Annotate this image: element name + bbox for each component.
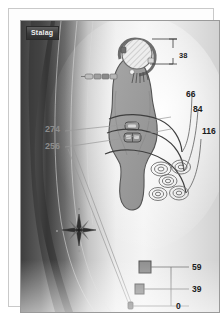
site-plan-graphic (21, 21, 219, 312)
figure-canvas: Stalag 38 66 84 116 274 256 59 39 0 (21, 21, 219, 312)
figure-title-plate: Stalag (26, 26, 59, 40)
label-contour-116: 116 (202, 127, 216, 136)
label-contour-84: 84 (193, 105, 202, 114)
label-scale-59: 59 (192, 263, 201, 272)
label-scale-39: 39 (192, 285, 201, 294)
plate-fade-overlay (21, 21, 219, 312)
figure-inner-frame: Stalag 38 66 84 116 274 256 59 39 0 (20, 20, 220, 313)
label-left-274: 274 (45, 125, 60, 134)
figure-panel: Stalag 38 66 84 116 274 256 59 39 0 (0, 0, 222, 315)
label-contour-66: 66 (186, 90, 195, 99)
label-dim-38: 38 (179, 51, 187, 60)
label-left-256: 256 (45, 142, 60, 151)
figure-outer-frame: Stalag 38 66 84 116 274 256 59 39 0 (8, 8, 214, 307)
label-scale-0: 0 (176, 302, 181, 311)
figure-title: Stalag (31, 29, 53, 36)
